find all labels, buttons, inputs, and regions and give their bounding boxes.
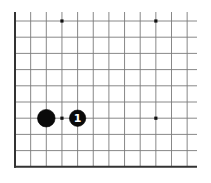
hoshi-point-icon bbox=[154, 117, 157, 120]
hoshi-point-icon bbox=[60, 117, 63, 120]
go-board-diagram: 1 bbox=[0, 0, 211, 183]
grid-lines bbox=[15, 12, 197, 167]
black-stone bbox=[38, 109, 56, 127]
hoshi-point-icon bbox=[60, 19, 63, 22]
hoshi-point-icon bbox=[154, 19, 157, 22]
stone-circle-icon bbox=[38, 109, 56, 127]
numbered-stone: 1 bbox=[69, 110, 85, 126]
board-edges bbox=[14, 12, 197, 168]
stone-move-number: 1 bbox=[74, 112, 82, 125]
